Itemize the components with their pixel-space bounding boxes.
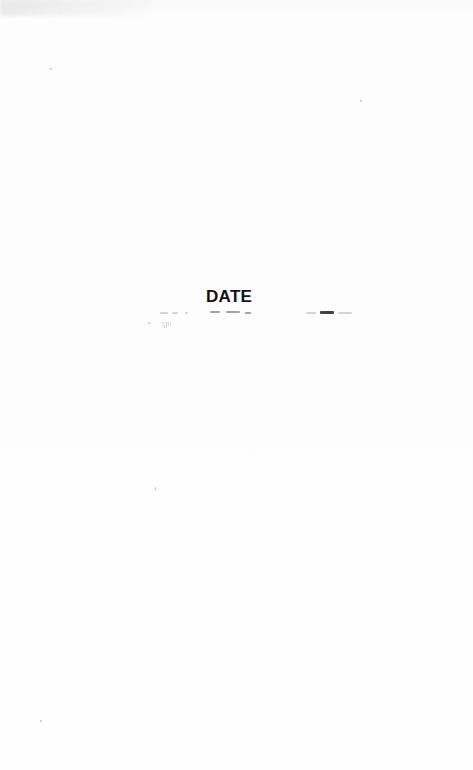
scan-noise (306, 312, 316, 314)
scan-speck (155, 487, 156, 491)
scan-speck (50, 68, 52, 70)
scan-noise (185, 312, 188, 314)
scan-noise (226, 311, 240, 313)
scan-noise (172, 312, 178, 314)
scanned-page: DATE ϛpɾ (0, 0, 473, 770)
date-heading: DATE (206, 287, 252, 307)
scan-noise (210, 311, 220, 313)
illegible-mark: ϛpɾ (162, 320, 172, 327)
scan-noise (160, 312, 168, 314)
scan-noise (245, 312, 251, 314)
scan-speck (360, 100, 362, 102)
scan-noise (338, 312, 352, 314)
scan-noise (320, 311, 334, 314)
scan-smudge (0, 0, 150, 16)
scan-speck (40, 720, 42, 722)
scan-speck (148, 322, 150, 324)
